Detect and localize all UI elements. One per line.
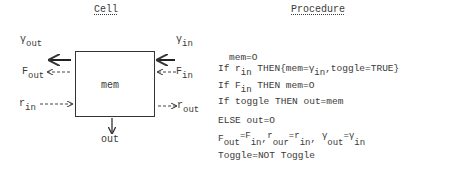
subscript: in [241,68,252,78]
gamma-in-label: γin [176,34,193,45]
code-text: If F [218,80,241,91]
f-out-label: Fout [22,66,44,77]
subscript: in [25,103,36,113]
r-in-label: rin [19,98,36,109]
subscript: in [182,71,193,81]
subscript: out [327,138,343,148]
procedure-line-2: If rin THEN{mem=γin,toggle=TRUE} [218,63,399,75]
subscript: in [241,85,252,95]
procedure-line-7: Toggle=NOT Toggle [218,150,315,162]
r-out-label: rout [177,100,199,111]
subscript: out [224,138,240,148]
subscript: out [26,39,42,49]
procedure-line-6: Fout=Fin,rour=rin, γout=γin [218,133,365,145]
comma: , [310,133,321,144]
code-text: F [245,131,250,141]
code-text: If r [218,63,241,74]
subscript: out [28,71,44,81]
procedure-heading: Procedure [291,4,345,15]
code-text: ,toggle=TRUE} [325,63,399,74]
subscript: in [182,39,193,49]
code-text: F [218,133,224,144]
subscript: out [183,105,199,115]
out-label: out [101,134,119,145]
procedure-line-4: If toggle THEN out=mem [218,96,343,108]
code-text: r [267,131,272,141]
subscript: in [354,138,365,148]
f-in-label: Fin [176,66,193,77]
code-text: THEN mem=O [252,80,315,91]
procedure-line-5: ELSE out=O [218,115,275,127]
subscript: in [251,138,262,148]
subscript: in [314,68,325,78]
subscript: our [273,138,289,148]
gamma-out-label: γout [20,34,42,45]
code-text: r [294,131,299,141]
procedure-line-3: If Fin THEN mem=O [218,80,314,92]
code-text: THEN{mem=γ [252,63,315,74]
subscript: in [300,138,311,148]
